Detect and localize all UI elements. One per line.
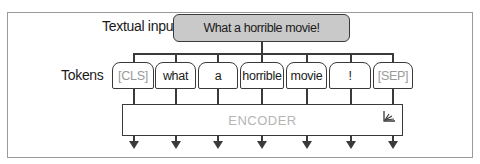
token-connector (392, 53, 394, 62)
token-horrible: horrible (240, 62, 284, 89)
encoder-connector (350, 89, 352, 104)
output-arrow-icon (213, 141, 223, 149)
token-exclamation: ! (329, 62, 371, 89)
output-arrow-icon (346, 141, 356, 149)
encoder-label: ENCODER (228, 113, 297, 128)
encoder-block: ENCODER (122, 104, 403, 136)
token-connector (175, 53, 177, 62)
output-arrow-icon (257, 141, 267, 149)
textual-input-box: What a horrible movie! (173, 14, 350, 42)
encoder-connector (392, 89, 394, 104)
token-connector (350, 53, 352, 62)
tokens-label: Tokens (61, 67, 104, 83)
token-connector (261, 53, 263, 62)
encoder-connector (133, 89, 135, 104)
token-movie: movie (286, 62, 327, 89)
token-connector (306, 53, 308, 62)
token-connector (133, 53, 135, 62)
token-connector (217, 53, 219, 62)
token-what: what (155, 62, 196, 89)
output-arrow-icon (171, 141, 181, 149)
token-sep: [SEP] (373, 62, 413, 89)
encoder-connector (217, 89, 219, 104)
frozen-weights-icon (382, 110, 396, 122)
output-arrow-icon (302, 141, 312, 149)
token-bus-line (133, 53, 393, 55)
encoder-connector (261, 89, 263, 104)
token-cls: [CLS] (112, 62, 154, 89)
encoder-connector (175, 89, 177, 104)
output-arrow-icon (388, 141, 398, 149)
token-a: a (198, 62, 238, 89)
textual-input-label: Textual input (102, 18, 177, 34)
encoder-connector (306, 89, 308, 104)
output-arrow-icon (129, 141, 139, 149)
